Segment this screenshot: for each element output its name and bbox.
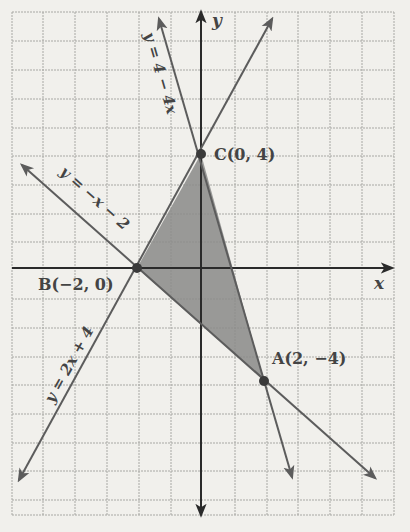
coordinate-graph: y x C(0, 4) B(−2, 0) A(2, −4) y = 4 − 4x… xyxy=(0,0,410,532)
axes xyxy=(12,12,392,515)
line-label-neg-x-minus-2: y = −x − 2 xyxy=(56,162,134,234)
line-y-eq-2x-plus-4 xyxy=(19,19,272,480)
point-b-label: B(−2, 0) xyxy=(38,275,113,294)
point-a xyxy=(259,376,269,386)
point-a-label: A(2, −4) xyxy=(271,349,346,368)
point-c-label: C(0, 4) xyxy=(214,145,275,164)
y-axis-label: y xyxy=(211,10,223,30)
point-c xyxy=(196,149,206,159)
point-b xyxy=(132,263,142,273)
x-axis-label: x xyxy=(373,273,385,293)
line-label-2x-plus-4: y = 2x + 4 xyxy=(40,323,97,407)
